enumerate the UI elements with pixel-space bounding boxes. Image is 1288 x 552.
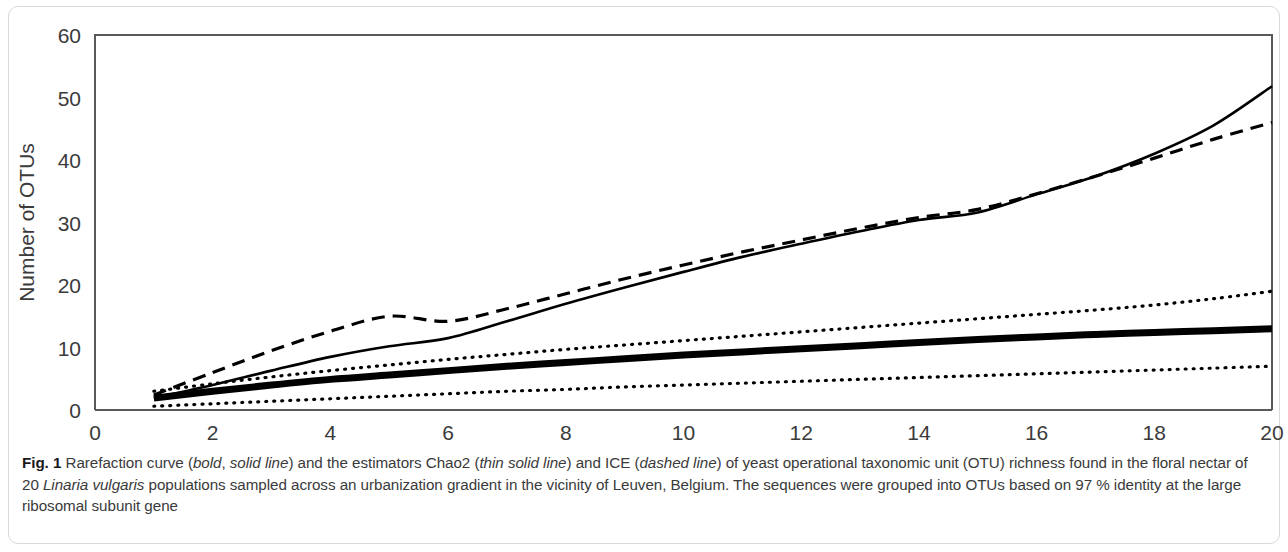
y-axis-title: Number of OTUs <box>15 143 38 302</box>
caption-segment: ) and the estimators Chao2 ( <box>288 454 479 471</box>
x-axis-tick-label: 20 <box>1260 421 1283 440</box>
caption-segment: solid line <box>230 454 289 471</box>
x-axis-tick-label: 6 <box>442 421 454 440</box>
x-axis-tick-label: 16 <box>1025 421 1048 440</box>
x-axis-tick-label: 18 <box>1143 421 1166 440</box>
x-axis-tick-label: 14 <box>907 421 931 440</box>
figure-label: Fig. 1 <box>22 454 61 471</box>
caption-segment: ) and ICE ( <box>567 454 640 471</box>
y-axis-tick-label: 30 <box>58 212 81 235</box>
chart-region: 010203040506002468101214161820Number of … <box>0 0 1288 440</box>
x-axis-tick-label: 4 <box>325 421 337 440</box>
x-axis-tick-label: 8 <box>560 421 572 440</box>
x-axis-tick-label: 10 <box>672 421 695 440</box>
y-axis-tick-label: 20 <box>58 274 81 297</box>
caption-segment: Linaria vulgaris <box>43 476 144 493</box>
x-axis-tick-label: 2 <box>207 421 219 440</box>
caption-segment: dashed line <box>639 454 716 471</box>
figure-caption: Fig. 1 Rarefaction curve (bold, solid li… <box>22 452 1266 517</box>
y-axis-tick-label: 0 <box>69 399 81 422</box>
x-axis-tick-label: 0 <box>89 421 101 440</box>
caption-segment: populations sampled across an urbanizati… <box>22 476 1241 515</box>
y-axis-tick-label: 50 <box>58 87 81 110</box>
caption-segment: bold <box>193 454 222 471</box>
caption-segment: thin solid line <box>479 454 566 471</box>
caption-segment: Rarefaction curve ( <box>66 454 193 471</box>
caption-segment: , <box>221 454 229 471</box>
caption-text: Rarefaction curve (bold, solid line) and… <box>22 454 1248 514</box>
series-line <box>154 291 1272 391</box>
x-axis-tick-label: 12 <box>790 421 813 440</box>
y-axis-tick-label: 10 <box>58 337 81 360</box>
y-axis-tick-label: 60 <box>58 24 81 47</box>
y-axis-tick-label: 40 <box>58 149 81 172</box>
rarefaction-chart: 010203040506002468101214161820Number of … <box>0 0 1288 440</box>
